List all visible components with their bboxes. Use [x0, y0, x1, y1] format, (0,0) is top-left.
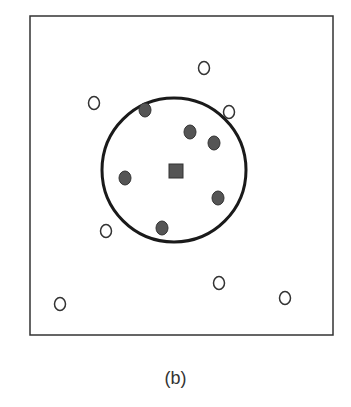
hollow-point — [55, 298, 66, 311]
hollow-point — [214, 277, 225, 290]
diagram-canvas — [0, 0, 351, 407]
filled-point — [184, 125, 196, 139]
filled-point — [119, 171, 131, 185]
filled-point — [139, 103, 151, 117]
filled-point — [212, 191, 224, 205]
hollow-point — [101, 225, 112, 238]
hollow-point — [280, 292, 291, 305]
hollow-point — [199, 62, 210, 75]
figure-caption: (b) — [0, 368, 351, 389]
hollow-point — [89, 97, 100, 110]
center-square-marker — [169, 164, 183, 178]
hollow-point — [224, 106, 235, 119]
filled-point — [208, 136, 220, 150]
filled-point — [156, 221, 168, 235]
